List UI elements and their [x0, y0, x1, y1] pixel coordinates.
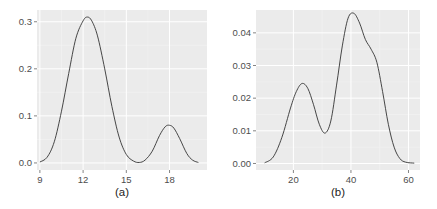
- y-tick-label: 0.3: [19, 16, 32, 27]
- density-plot-b: 0.000.010.020.030.04204060(b): [233, 10, 421, 198]
- x-tick-label: 9: [37, 174, 42, 185]
- plot-panel-background: [256, 10, 420, 170]
- y-tick-label: 0.1: [19, 110, 32, 121]
- x-tick-label: 15: [121, 174, 132, 185]
- x-tick-label: 40: [346, 174, 357, 185]
- x-tick-label: 18: [164, 174, 175, 185]
- panel-caption: (b): [331, 186, 345, 198]
- y-tick-label: 0.01: [233, 125, 252, 136]
- y-tick-label: 0.2: [19, 63, 32, 74]
- y-tick-label: 0.02: [233, 92, 252, 103]
- density-plot-a: 0.00.10.20.39121518(a): [19, 10, 207, 198]
- x-tick-label: 12: [78, 174, 89, 185]
- x-tick-label: 60: [403, 174, 414, 185]
- y-tick-label: 0.04: [233, 27, 252, 38]
- y-tick-label: 0.0: [19, 157, 32, 168]
- density-plots-figure: 0.00.10.20.39121518(a) 0.000.010.020.030…: [0, 0, 437, 209]
- y-tick-label: 0.03: [233, 60, 252, 71]
- y-tick-label: 0.00: [233, 158, 252, 169]
- x-tick-label: 20: [288, 174, 299, 185]
- panel-caption: (a): [115, 186, 129, 198]
